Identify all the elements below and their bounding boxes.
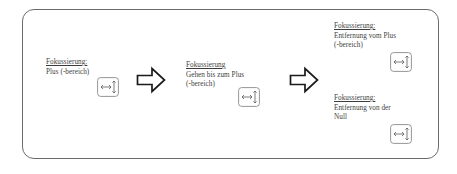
stage-block-4: Fokussierung: Entfernung von der Null <box>334 94 391 123</box>
block-arrow-right-icon <box>136 66 166 94</box>
stage-block-3: Fokussierung: Entfernung vom Plus (-bere… <box>334 22 396 51</box>
stage-title: Fokussierung: <box>334 94 391 104</box>
diagram-canvas: Fokussierung: Plus (-bereich) Fokussie <box>0 0 457 174</box>
stage-line: Entfernung vom Plus <box>334 32 396 42</box>
stage-line: Gehen bis zum Plus <box>186 71 244 81</box>
block-arrow-right-icon <box>289 66 319 94</box>
stage-title: Fokussierung: <box>46 58 89 68</box>
focus-area-icon <box>390 124 412 144</box>
stage-block-1: Fokussierung: Plus (-bereich) <box>46 58 89 77</box>
focus-area-icon <box>390 52 412 72</box>
stage-line: Entfernung von der <box>334 104 391 114</box>
stage-title: Fokussierung: <box>334 22 396 32</box>
stage-line: (-bereich) <box>334 41 396 51</box>
stage-title: Fokussierung <box>186 61 244 71</box>
focus-area-icon <box>238 87 260 107</box>
stage-line: Null <box>334 113 391 123</box>
stage-block-2: Fokussierung Gehen bis zum Plus (-bereic… <box>186 61 244 90</box>
stage-line: Plus (-bereich) <box>46 68 89 78</box>
stage-line: (-bereich) <box>186 80 244 90</box>
focus-area-icon <box>97 77 119 97</box>
